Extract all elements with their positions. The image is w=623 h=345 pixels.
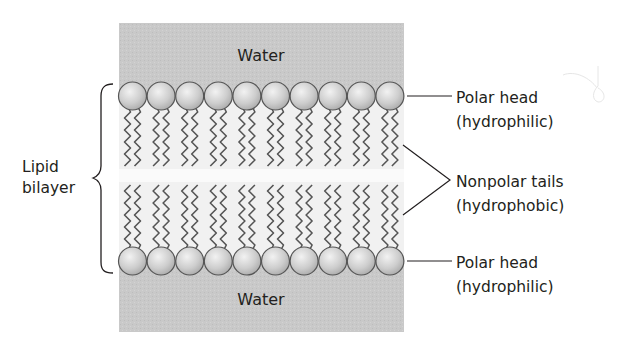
water-label-bottom: Water [237,290,285,309]
polar-head [176,247,204,275]
polar-head [204,247,232,275]
polar-head [319,247,347,275]
polar-head-label-bottom: Polar head [456,254,538,272]
water-label-top: Water [237,46,285,65]
polar-head [147,247,175,275]
lipid-bilayer-label-line2: bilayer [22,179,76,197]
hydrophilic-label-top: (hydrophilic) [456,113,554,131]
polar-head [290,82,318,110]
polar-head [176,82,204,110]
callout-line-tails [403,145,450,215]
polar-head [119,82,147,110]
lipid-bilayer-diagram: Water Water Lipid bilayer Polar head (hy… [0,0,623,345]
polar-head [147,82,175,110]
hydrophilic-label-bottom: (hydrophilic) [456,278,554,296]
polar-head [290,247,318,275]
polar-head [204,82,232,110]
scribble-mark [563,66,604,102]
polar-head [347,82,375,110]
polar-head [347,247,375,275]
polar-head [262,247,290,275]
polar-head [376,82,404,110]
polar-head-label-top: Polar head [456,89,538,107]
bilayer-brace [93,84,113,273]
polar-head [262,82,290,110]
bilayer-midplane [119,169,404,182]
polar-head [233,82,261,110]
nonpolar-tails-label: Nonpolar tails [456,173,564,191]
polar-head [376,247,404,275]
polar-head [233,247,261,275]
hydrophobic-label: (hydrophobic) [456,197,564,215]
polar-head [119,247,147,275]
lipid-bilayer-label: Lipid [22,158,59,176]
polar-head [319,82,347,110]
